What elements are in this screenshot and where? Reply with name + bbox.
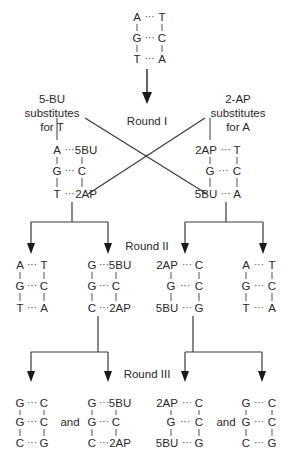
base-left: 5BU <box>156 302 178 315</box>
label-line: substitutes <box>211 106 266 120</box>
hydrogen-bond-dots: ··· <box>221 144 231 155</box>
hydrogen-bond-dots: ··· <box>99 302 109 313</box>
round-3-label: Round III <box>124 368 171 380</box>
base-right: G <box>195 437 204 450</box>
base-right: G <box>268 437 277 450</box>
base-left: T <box>53 188 60 201</box>
hydrogen-bond-dots: ··· <box>182 302 192 313</box>
base-left: G <box>53 165 62 178</box>
base-left: G <box>167 280 176 293</box>
base-left: G <box>88 397 97 410</box>
base-left: G <box>242 416 251 429</box>
round-2-label: Round II <box>125 240 168 252</box>
base-left: A <box>16 259 24 272</box>
base-left: C <box>242 437 250 450</box>
base-right: C <box>78 165 86 178</box>
base-left: G <box>16 280 25 293</box>
base-left: G <box>88 416 97 429</box>
base-right: 5BU <box>109 397 131 410</box>
hydrogen-bond-dots: ··· <box>254 302 264 313</box>
base-right: G <box>195 302 204 315</box>
base-left: 5BU <box>156 437 178 450</box>
hydrogen-bond-dots: ··· <box>27 437 37 448</box>
base-right: A <box>233 188 241 201</box>
base-left: 2AP <box>156 259 178 272</box>
hydrogen-bond-dots: ··· <box>254 416 264 427</box>
mutagen-replication-diagram: 5-BU substitutes for T 2-AP substitutes … <box>0 0 292 466</box>
hydrogen-bond-dots: ··· <box>65 165 75 176</box>
label-5bu-substitutes-for-t: 5-BU substitutes for T <box>25 92 80 134</box>
hydrogen-bond-dots: ··· <box>254 397 264 408</box>
base-left: A <box>242 259 250 272</box>
hydrogen-bond-dots: ··· <box>27 302 37 313</box>
hydrogen-bond-dots: ··· <box>182 397 192 408</box>
base-left: G <box>242 397 251 410</box>
base-right: T <box>158 11 165 24</box>
hydrogen-bond-dots: ··· <box>254 437 264 448</box>
base-right: 2AP <box>109 302 131 315</box>
hydrogen-bond-dots: ··· <box>180 280 190 291</box>
hydrogen-bond-dots: ··· <box>219 165 229 176</box>
base-left: G <box>88 259 97 272</box>
and-label-right: and <box>216 416 235 428</box>
base-right: 5BU <box>109 259 131 272</box>
base-right: C <box>268 280 276 293</box>
base-right: C <box>40 397 48 410</box>
base-right: T <box>268 259 275 272</box>
hydrogen-bond-dots: ··· <box>182 437 192 448</box>
base-left: T <box>16 302 23 315</box>
and-label-left: and <box>60 416 79 428</box>
base-right: C <box>195 397 203 410</box>
hydrogen-bond-dots: ··· <box>145 32 155 43</box>
hydrogen-bond-dots: ··· <box>65 188 75 199</box>
base-left: T <box>133 53 140 66</box>
label-line: for T <box>25 120 80 134</box>
hydrogen-bond-dots: ··· <box>27 259 37 270</box>
hydrogen-bond-dots: ··· <box>99 280 109 291</box>
base-right: C <box>195 280 203 293</box>
hydrogen-bond-dots: ··· <box>180 416 190 427</box>
hydrogen-bond-dots: ··· <box>27 397 37 408</box>
base-right: C <box>40 416 48 429</box>
base-left: G <box>242 280 251 293</box>
base-right: C <box>158 32 166 45</box>
hydrogen-bond-dots: ··· <box>65 144 75 155</box>
base-right: 2AP <box>109 437 131 450</box>
base-left: C <box>88 437 96 450</box>
hydrogen-bond-dots: ··· <box>99 416 109 427</box>
base-left: 2AP <box>195 144 217 157</box>
base-left: C <box>16 437 24 450</box>
base-right: 2AP <box>75 188 97 201</box>
base-right: C <box>233 165 241 178</box>
base-left: G <box>133 32 142 45</box>
label-line: 5-BU <box>25 92 80 106</box>
base-left: G <box>167 416 176 429</box>
hydrogen-bond-dots: ··· <box>221 188 231 199</box>
base-right: A <box>158 53 166 66</box>
hydrogen-bond-dots: ··· <box>182 259 192 270</box>
base-right: C <box>268 416 276 429</box>
base-right: C <box>195 416 203 429</box>
hydrogen-bond-dots: ··· <box>99 259 109 270</box>
base-right: C <box>40 280 48 293</box>
base-left: 5BU <box>195 188 217 201</box>
base-right: A <box>40 302 48 315</box>
label-line: 2-AP <box>211 92 266 106</box>
hydrogen-bond-dots: ··· <box>99 437 109 448</box>
hydrogen-bond-dots: ··· <box>27 416 37 427</box>
base-right: A <box>268 302 276 315</box>
base-right: C <box>195 259 203 272</box>
base-left: C <box>88 302 96 315</box>
base-left: G <box>88 280 97 293</box>
base-left: G <box>16 416 25 429</box>
base-right: 5BU <box>75 144 97 157</box>
hydrogen-bond-dots: ··· <box>145 11 155 22</box>
label-line: for A <box>211 120 266 134</box>
hydrogen-bond-dots: ··· <box>254 280 264 291</box>
base-right: G <box>40 437 49 450</box>
base-right: C <box>112 416 120 429</box>
base-left: A <box>133 11 141 24</box>
hydrogen-bond-dots: ··· <box>145 53 155 64</box>
base-left: G <box>206 165 215 178</box>
round-1-label: Round I <box>127 115 167 127</box>
